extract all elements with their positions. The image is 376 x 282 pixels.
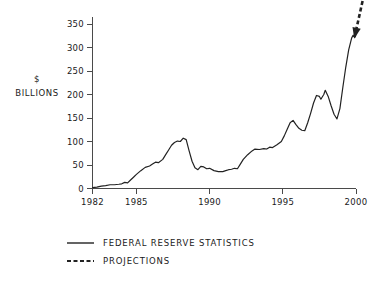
data-series-line bbox=[93, 35, 355, 187]
x-tick-label-1990: 1990 bbox=[198, 197, 221, 207]
y-tick-label-250: 250 bbox=[67, 66, 84, 76]
y-tick-label-100: 100 bbox=[67, 137, 84, 147]
y-tick-label-350: 350 bbox=[67, 19, 84, 29]
x-tick-label-1985: 1985 bbox=[125, 197, 148, 207]
x-tick-label-1995: 1995 bbox=[271, 197, 294, 207]
y-axis-label-line-2: BILLIONS bbox=[15, 88, 59, 98]
legend-label-federal-reserve-statistics: FEDERAL RESERVE STATISTICS bbox=[103, 238, 255, 248]
y-tick-label-150: 150 bbox=[67, 113, 84, 123]
legend-label-projections: PROJECTIONS bbox=[103, 256, 170, 266]
y-tick-label-300: 300 bbox=[67, 43, 84, 53]
chart-svg: $ BILLIONS 050100150200250300350 1982198… bbox=[0, 0, 376, 282]
y-axis-label-line-1: $ bbox=[34, 74, 40, 84]
y-tick-label-0: 0 bbox=[78, 184, 84, 194]
x-tick-label-1982: 1982 bbox=[81, 197, 104, 207]
chart-legend: FEDERAL RESERVE STATISTICSPROJECTIONS bbox=[67, 238, 255, 266]
y-tick-label-200: 200 bbox=[67, 90, 84, 100]
y-axis-ticks: 050100150200250300350 bbox=[67, 19, 93, 193]
data-series-group bbox=[93, 0, 365, 188]
x-tick-label-2000: 2000 bbox=[345, 197, 368, 207]
chart-container: $ BILLIONS 050100150200250300350 1982198… bbox=[0, 0, 376, 282]
y-tick-label-50: 50 bbox=[73, 160, 84, 170]
x-axis-ticks: 19821985199019952000 bbox=[81, 189, 367, 208]
y-axis-label: $ BILLIONS bbox=[15, 74, 59, 98]
